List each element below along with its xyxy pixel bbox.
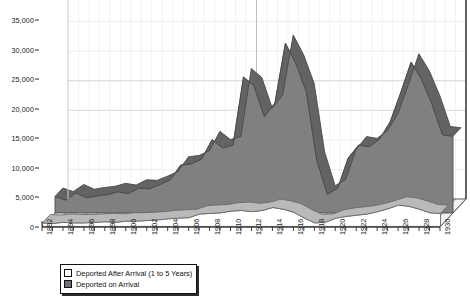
y-axis-tick	[35, 79, 39, 80]
x-axis-label: 1918	[317, 219, 326, 235]
x-axis-label: 1906	[192, 219, 201, 235]
x-axis-label: 1892	[45, 219, 54, 235]
x-axis-label: 1908	[213, 219, 222, 235]
legend-item: Deported on Arrival	[64, 279, 192, 289]
legend-swatch-deported-after-arrival	[64, 269, 72, 277]
y-axis-tick	[35, 227, 39, 228]
legend-swatch-deported-on-arrival	[64, 280, 72, 288]
legend-label-deported-after-arrival: Deported After Arrival (1 to 5 Years)	[76, 269, 192, 278]
x-axis-label: 1916	[296, 219, 305, 235]
deportation-area-chart: 05,00010,00015,00020,00025,00030,00035,0…	[0, 0, 470, 300]
y-axis-tick	[35, 167, 39, 168]
x-axis-label: 1920	[338, 219, 347, 235]
x-axis-label: 1912	[254, 219, 263, 235]
y-axis-tick	[35, 20, 39, 21]
x-axis-label: 1896	[87, 219, 96, 235]
legend-label-deported-on-arrival: Deported on Arrival	[76, 280, 139, 289]
x-axis-label: 1910	[234, 219, 243, 235]
y-axis-tick	[35, 49, 39, 50]
plot-area	[0, 0, 470, 300]
x-axis-label: 1914	[275, 219, 284, 235]
x-axis-label: 1904	[171, 219, 180, 235]
x-axis-label: 1902	[150, 219, 159, 235]
chart-legend: Deported After Arrival (1 to 5 Years) De…	[60, 264, 197, 294]
x-axis-label: 1898	[108, 219, 117, 235]
x-axis-label: 1922	[359, 219, 368, 235]
x-axis-label: 1930	[443, 219, 452, 235]
x-axis-label: 1926	[401, 219, 410, 235]
legend-item: Deported After Arrival (1 to 5 Years)	[64, 268, 192, 278]
x-axis-label: 1924	[380, 219, 389, 235]
x-axis-label: 1900	[129, 219, 138, 235]
x-axis-label: 1928	[422, 219, 431, 235]
y-axis-tick	[35, 138, 39, 139]
y-axis-tick	[35, 108, 39, 109]
x-axis-label: 1894	[66, 219, 75, 235]
y-axis-tick	[35, 197, 39, 198]
